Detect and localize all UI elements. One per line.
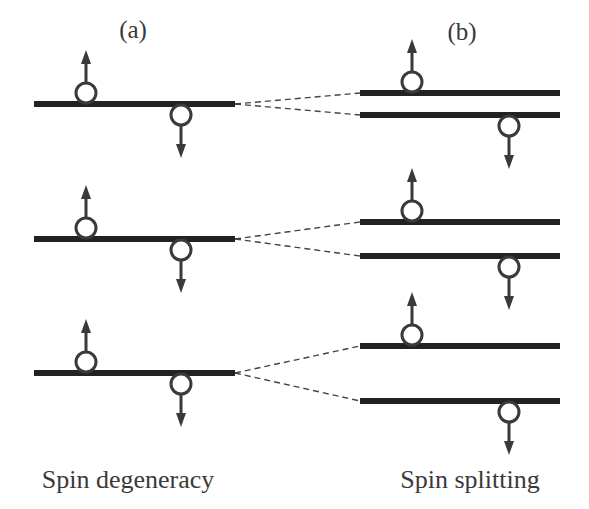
arrow-up-icon — [407, 292, 417, 306]
spin-down-electron — [499, 116, 519, 169]
electron-circle — [402, 201, 422, 221]
arrow-up-icon — [81, 319, 91, 333]
arrow-down-icon — [504, 296, 514, 310]
arrow-up-icon — [407, 168, 417, 182]
arrow-down-icon — [176, 279, 186, 293]
electron-circle — [171, 374, 191, 394]
spin-down-electron — [171, 374, 191, 427]
spin-splitting-diagram: (a) (b) Spin degeneracy Spin splitting — [0, 0, 589, 509]
arrow-down-icon — [176, 413, 186, 427]
spin-up-electron — [76, 50, 96, 103]
arrow-down-icon — [504, 441, 514, 455]
electron-circle — [76, 352, 96, 372]
electron-circle — [171, 105, 191, 125]
panel-a-label: (a) — [119, 16, 147, 44]
electron-circle — [499, 257, 519, 277]
arrow-up-icon — [407, 39, 417, 53]
electron-circle — [499, 402, 519, 422]
arrow-down-icon — [504, 155, 514, 169]
caption-spin-degeneracy: Spin degeneracy — [42, 465, 215, 494]
electron-circle — [171, 240, 191, 260]
arrow-down-icon — [176, 144, 186, 158]
electron-circle — [402, 325, 422, 345]
spin-up-electron — [76, 319, 96, 372]
arrow-up-icon — [81, 50, 91, 64]
spin-up-electron — [402, 168, 422, 221]
spin-down-electron — [171, 240, 191, 293]
caption-spin-splitting: Spin splitting — [400, 465, 539, 494]
electron-circle — [499, 116, 519, 136]
energy-level-group — [34, 292, 560, 455]
spin-down-electron — [171, 105, 191, 158]
electron-circle — [76, 83, 96, 103]
electron-circle — [76, 218, 96, 238]
spin-down-electron — [499, 402, 519, 455]
connector-upper — [235, 222, 360, 239]
energy-levels — [34, 39, 560, 455]
spin-up-electron — [402, 292, 422, 345]
panel-b-label: (b) — [447, 18, 476, 46]
energy-level-group — [34, 168, 560, 310]
spin-up-electron — [76, 185, 96, 238]
spin-down-electron — [499, 257, 519, 310]
spin-up-electron — [402, 39, 422, 92]
energy-level-group — [34, 39, 560, 169]
arrow-up-icon — [81, 185, 91, 199]
connector-lower — [235, 104, 360, 115]
connector-lower — [235, 373, 360, 401]
electron-circle — [402, 72, 422, 92]
connector-lower — [235, 239, 360, 256]
connector-upper — [235, 346, 360, 373]
connector-upper — [235, 93, 360, 104]
